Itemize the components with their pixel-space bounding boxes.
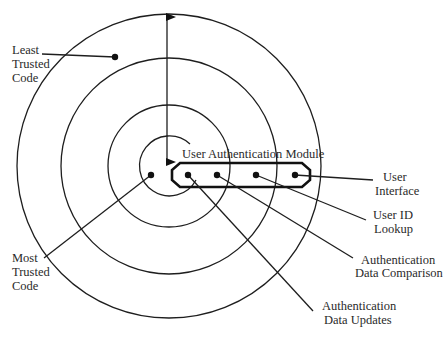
user-interface-label-2: Interface	[375, 184, 420, 198]
ring-outer	[17, 14, 321, 318]
user-id-lookup-label-1: User ID	[373, 208, 413, 222]
least-trusted-leader	[42, 54, 115, 57]
user-authentication-module-box	[172, 163, 310, 187]
ring-second	[61, 58, 277, 274]
user-interface-leader	[295, 175, 373, 180]
data-updates-label-2: Data Updates	[324, 313, 392, 327]
least-trusted-label-2: Trusted	[12, 57, 50, 71]
most-trusted-label-2: Trusted	[12, 265, 50, 279]
user-interface-dot	[292, 172, 298, 178]
most-trusted-label-3: Code	[12, 279, 39, 293]
most-trusted-label-1: Most	[12, 251, 38, 265]
data-updates-dot	[185, 172, 191, 178]
least-trusted-label-1: Least	[12, 43, 40, 57]
module-title-label: User Authentication Module	[182, 147, 325, 161]
least-trusted-label-3: Code	[12, 71, 39, 85]
least-trusted-dot	[112, 54, 118, 60]
data-comparison-label-2: Data Comparison	[355, 266, 444, 280]
user-id-lookup-dot	[253, 172, 259, 178]
data-comparison-label-1: Authentication	[361, 253, 436, 267]
trust-rings-diagram: User Authentication Module Least Trusted…	[0, 0, 446, 337]
ring-third	[108, 105, 230, 227]
data-comparison-dot	[214, 172, 220, 178]
user-id-lookup-label-2: Lookup	[374, 222, 413, 236]
data-updates-label-1: Authentication	[322, 299, 397, 313]
most-trusted-dot	[148, 172, 154, 178]
user-interface-label-1: User	[383, 170, 407, 184]
